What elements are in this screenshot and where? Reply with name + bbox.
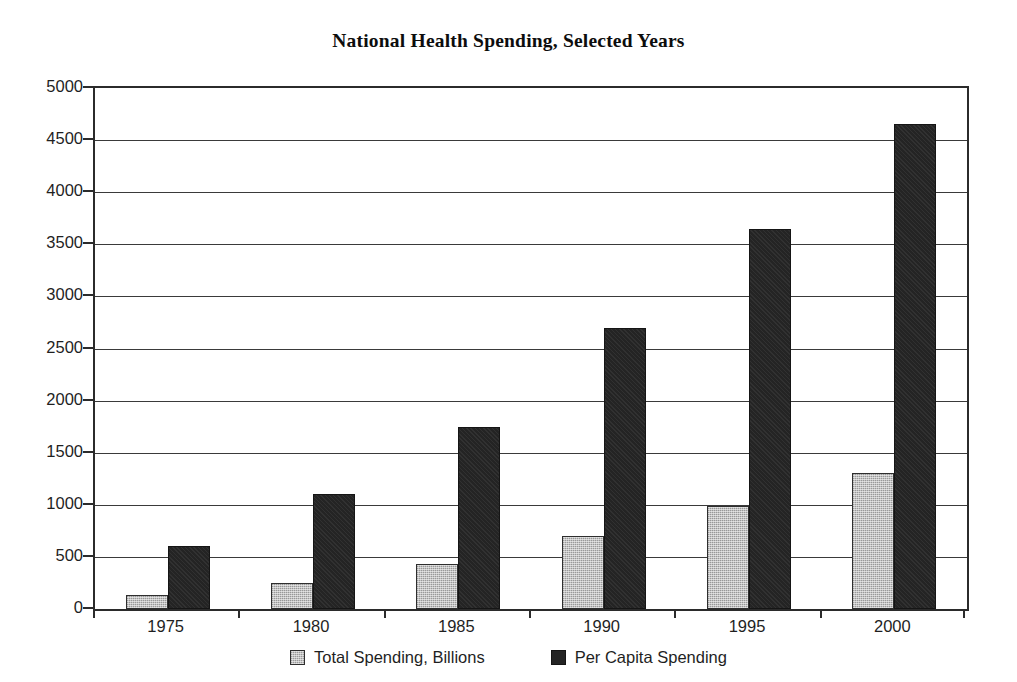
y-axis-tick-mark [83,607,93,609]
y-axis-ticks [0,86,93,607]
bar [749,229,791,609]
plot-area [93,86,969,611]
bar [458,427,500,609]
bars-container [95,88,967,609]
x-axis-tick-label: 1975 [106,617,226,636]
legend-label: Per Capita Spending [575,648,727,667]
legend-entry: Per Capita Spending [551,648,727,667]
y-axis-tick-mark [83,451,93,453]
legend-swatch-per-capita [551,650,566,665]
legend-swatch-total [290,650,305,665]
x-axis-tick-label: 1985 [396,617,516,636]
chart-legend: Total Spending, BillionsPer Capita Spend… [0,648,1017,667]
x-axis-labels: 197519801985199019952000 [93,617,965,643]
bar [894,124,936,609]
y-axis-tick-mark [83,555,93,557]
legend-entry: Total Spending, Billions [290,648,485,667]
x-axis-tick-label: 1980 [251,617,371,636]
bar [271,583,313,609]
bar [168,546,210,609]
bar [707,506,749,609]
bar [852,473,894,610]
bar [126,595,168,609]
legend-label: Total Spending, Billions [314,648,485,667]
y-axis-tick-mark [83,86,93,88]
y-axis-tick-mark [83,190,93,192]
y-axis-tick-mark [83,138,93,140]
chart-title: National Health Spending, Selected Years [0,30,1017,52]
bar [313,494,355,609]
x-axis-tick-label: 2000 [832,617,952,636]
bar [562,536,604,609]
y-axis-tick-mark [83,399,93,401]
bar [604,328,646,609]
y-axis-tick-mark [83,347,93,349]
x-axis-tick-label: 1995 [687,617,807,636]
bar [416,564,458,609]
y-axis-tick-mark [83,503,93,505]
y-axis-tick-mark [83,294,93,296]
x-axis-tick-label: 1990 [542,617,662,636]
y-axis-tick-mark [83,242,93,244]
